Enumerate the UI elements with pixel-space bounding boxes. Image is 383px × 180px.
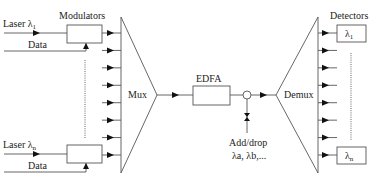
data-n-arrow-icon bbox=[83, 163, 89, 169]
input-channel-1: Laser λ1 Data bbox=[3, 18, 102, 51]
demux-output-arrow-icon bbox=[322, 135, 329, 141]
laser-n-label: Laser λn bbox=[3, 139, 37, 152]
add-drop-coupler bbox=[243, 91, 251, 99]
modulator-n bbox=[67, 145, 102, 163]
data-1-label: Data bbox=[28, 39, 47, 50]
mux-input-arrow-icon bbox=[107, 65, 114, 71]
demux-output-arrow-icon bbox=[322, 100, 329, 106]
input-channel-n: Laser λn Data bbox=[3, 139, 102, 172]
laser-n-arrow-icon bbox=[33, 151, 40, 157]
mux-label: Mux bbox=[128, 89, 147, 100]
demux-output-arrow-icon bbox=[322, 82, 329, 88]
modulators-label: Modulators bbox=[59, 10, 105, 21]
mux-input-arrow-icon bbox=[107, 82, 114, 88]
edfa-box bbox=[193, 86, 230, 105]
mux-input-arrow-icon bbox=[107, 117, 114, 123]
add-drop-channels: λa, λb,... bbox=[232, 150, 266, 161]
mux-input-arrow-icon bbox=[107, 135, 114, 141]
data-1-arrow-icon bbox=[83, 43, 89, 49]
mux-input-arrow-icon bbox=[107, 30, 114, 36]
mux-input-arrow-icon bbox=[107, 100, 114, 106]
drop-arrow-icon bbox=[244, 113, 250, 117]
edfa-label: EDFA bbox=[196, 73, 222, 84]
add-arrow-icon bbox=[244, 117, 250, 121]
mux-to-edfa-arrow-icon bbox=[172, 92, 179, 98]
laser-1-label: Laser λ1 bbox=[3, 18, 37, 31]
mux-input-arrow-icon bbox=[107, 152, 114, 158]
laser-1-arrow-icon bbox=[33, 30, 40, 36]
demux-label: Demux bbox=[284, 89, 313, 100]
mux-input-arrow-icon bbox=[107, 47, 114, 53]
demux-outputs bbox=[318, 30, 337, 158]
detectors-label: Detectors bbox=[330, 10, 368, 21]
mux-inputs bbox=[102, 30, 121, 158]
demux-output-arrow-icon bbox=[322, 47, 329, 53]
demux-output-arrow-icon bbox=[322, 30, 329, 36]
wdm-diagram: Laser λ1 Data Modulators Laser λn Data M… bbox=[0, 0, 383, 180]
modulator-1 bbox=[67, 25, 102, 43]
demux-output-arrow-icon bbox=[322, 152, 329, 158]
demux-output-arrow-icon bbox=[322, 65, 329, 71]
coupler-to-demux-arrow-icon bbox=[260, 92, 267, 98]
add-drop-label: Add/drop bbox=[229, 137, 267, 148]
demux-output-arrow-icon bbox=[322, 117, 329, 123]
data-n-label: Data bbox=[28, 160, 47, 171]
